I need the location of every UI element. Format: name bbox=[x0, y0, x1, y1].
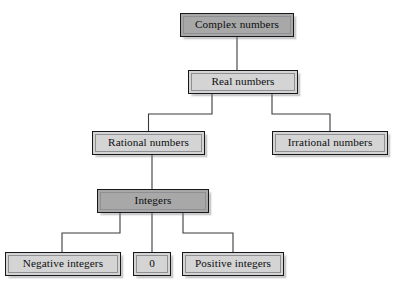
node-rational-numbers[interactable]: Rational numbers bbox=[92, 131, 205, 155]
node-label-zero: 0 bbox=[149, 258, 155, 269]
edge-integers-to-positive-integers bbox=[183, 213, 233, 252]
node-label-complex-numbers: Complex numbers bbox=[195, 19, 279, 30]
node-positive-integers[interactable]: Positive integers bbox=[182, 252, 284, 276]
node-irrational-numbers[interactable]: Irrational numbers bbox=[272, 131, 388, 155]
node-label-real-numbers: Real numbers bbox=[211, 76, 274, 87]
node-negative-integers[interactable]: Negative integers bbox=[5, 252, 121, 276]
node-label-irrational-numbers: Irrational numbers bbox=[288, 137, 373, 148]
node-real-numbers[interactable]: Real numbers bbox=[188, 70, 298, 94]
edge-real-numbers-to-irrational-numbers bbox=[272, 94, 330, 131]
node-label-integers: Integers bbox=[135, 195, 172, 206]
edge-integers-to-negative-integers bbox=[62, 213, 120, 252]
node-label-positive-integers: Positive integers bbox=[195, 258, 271, 269]
node-label-negative-integers: Negative integers bbox=[23, 258, 103, 269]
node-integers[interactable]: Integers bbox=[97, 189, 209, 213]
number-classification-diagram: Complex numbersReal numbersRational numb… bbox=[0, 0, 394, 285]
edge-real-numbers-to-rational-numbers bbox=[149, 94, 213, 131]
node-complex-numbers[interactable]: Complex numbers bbox=[180, 13, 294, 37]
node-label-rational-numbers: Rational numbers bbox=[108, 137, 189, 148]
node-zero[interactable]: 0 bbox=[133, 252, 171, 276]
